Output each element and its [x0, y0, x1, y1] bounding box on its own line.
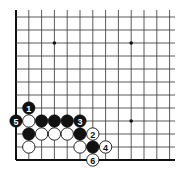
go-board: 123456 [0, 0, 188, 178]
white-stone [35, 128, 47, 140]
move-number: 2 [90, 130, 95, 140]
black-stone [35, 115, 47, 127]
white-stone-move-4: 4 [99, 141, 111, 153]
star-point [129, 119, 133, 123]
black-stone [74, 128, 86, 140]
white-stone [48, 128, 60, 140]
black-stone-move-5: 5 [10, 115, 22, 127]
black-stone [87, 141, 99, 153]
black-stone [23, 128, 35, 140]
white-stone [23, 115, 35, 127]
stones: 123456 [10, 102, 112, 166]
move-number: 1 [26, 104, 31, 114]
star-point [129, 41, 133, 45]
black-stone [48, 115, 60, 127]
move-number: 4 [103, 143, 108, 153]
white-stone [23, 141, 35, 153]
white-stone [61, 128, 73, 140]
white-stone-move-2: 2 [87, 128, 99, 140]
move-number: 5 [13, 117, 18, 127]
white-stone [74, 141, 86, 153]
black-stone-move-3: 3 [74, 115, 86, 127]
white-stone-move-6: 6 [87, 154, 99, 166]
move-number: 6 [90, 156, 95, 166]
star-point [53, 41, 57, 45]
black-stone [61, 115, 73, 127]
move-number: 3 [77, 117, 82, 127]
black-stone-move-1: 1 [23, 102, 35, 114]
